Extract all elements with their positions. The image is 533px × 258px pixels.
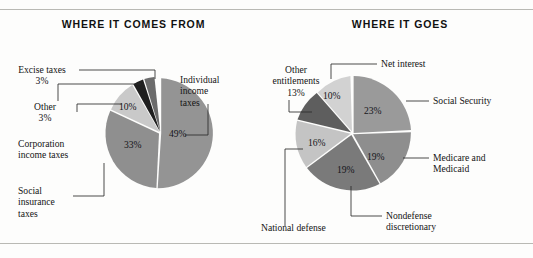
label-excise-taxes-name: Excise taxes <box>6 64 78 75</box>
label-excise-taxes-pct: 3% <box>6 75 78 86</box>
label-corporation-line1: Corporation <box>18 138 68 149</box>
label-individual-line2: income <box>180 85 219 96</box>
label-corporation-line2: income taxes <box>18 149 68 160</box>
label-nondefense-line1: Nondefense <box>386 210 436 221</box>
label-social-security: Social Security <box>433 95 491 106</box>
leader-social-insurance-taxes <box>73 163 104 196</box>
label-social-line3: taxes <box>18 208 55 219</box>
label-other-entitlements-pct: 13% <box>265 87 327 98</box>
left-pie-wrap: 49% 33% 10% Excise taxes 3% <box>0 0 267 258</box>
left-pct-individual: 49% <box>169 128 187 139</box>
left-pie-svg: 49% 33% 10% <box>0 0 267 258</box>
right-pct-national-defense: 16% <box>308 137 326 148</box>
slice-social-security[interactable] <box>354 76 411 133</box>
right-pct-medicare: 19% <box>367 151 385 162</box>
label-medicare-line1: Medicare and <box>433 152 485 163</box>
figure-container: WHERE IT COMES FROM 49% 33% 10% <box>0 0 533 258</box>
right-pie-wrap: 23% 19% 19% 16% 10% <box>267 0 533 258</box>
right-pct-nondefense: 19% <box>337 164 355 175</box>
left-pct-social-insurance: 33% <box>124 139 142 150</box>
label-other-name: Other <box>22 101 68 112</box>
label-other-pct: 3% <box>22 112 68 123</box>
label-nondefense-discretionary: Nondefense discretionary <box>386 210 436 233</box>
label-medicare-medicaid: Medicare and Medicaid <box>433 152 485 175</box>
leader-excise-taxes <box>79 70 155 79</box>
label-net-interest: Net interest <box>381 58 426 69</box>
leader-nondefense-discretionary <box>351 186 382 216</box>
left-pct-corporation: 10% <box>119 101 137 112</box>
chart-panel-where-it-goes: WHERE IT GOES 23% 19% 19% <box>267 0 533 258</box>
label-excise-taxes: Excise taxes 3% <box>6 64 78 87</box>
label-corporation-income-taxes: Corporation income taxes <box>18 138 68 161</box>
label-nondefense-line2: discretionary <box>386 221 436 232</box>
chart-panel-where-it-comes-from: WHERE IT COMES FROM 49% 33% 10% <box>0 0 267 258</box>
right-pct-social-security: 23% <box>364 105 382 116</box>
label-social-line1: Social <box>18 185 55 196</box>
label-social-insurance-taxes: Social insurance taxes <box>18 185 55 219</box>
label-other-entitlements-line2: entitlements <box>265 75 327 86</box>
label-individual-line1: Individual <box>180 74 219 85</box>
label-social-line2: insurance <box>18 196 55 207</box>
label-other-entitlements: Other entitlements 13% <box>265 64 327 98</box>
label-individual-line3: taxes <box>180 97 219 108</box>
label-individual-income-taxes: Individual income taxes <box>180 74 219 108</box>
label-other: Other 3% <box>22 101 68 124</box>
label-national-defense: National defense <box>261 222 326 233</box>
leader-national-defense <box>285 149 303 226</box>
label-medicare-line2: Medicaid <box>433 163 485 174</box>
label-other-entitlements-line1: Other <box>265 64 327 75</box>
